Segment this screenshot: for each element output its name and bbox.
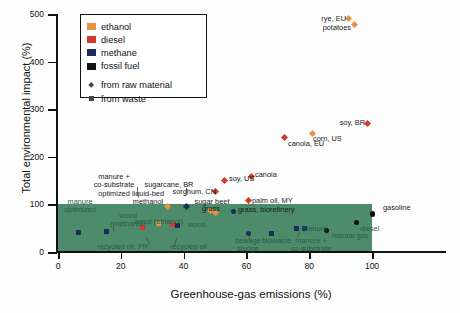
point-manure[interactable] xyxy=(294,226,299,231)
legend-label-diesel: diesel xyxy=(101,35,125,45)
y-tick-400 xyxy=(48,62,57,64)
x-tick-0 xyxy=(58,251,60,259)
legend-label-from-raw-material: from raw material xyxy=(101,80,172,90)
label-manure-co-substrate-optimized: manure + co-substrate optimized xyxy=(84,173,144,198)
label-manure-optimized: manure optimized xyxy=(56,198,104,215)
label-recycled-oil-fr: recycled oil, FR xyxy=(97,243,148,251)
point-canola-eu[interactable] xyxy=(281,134,288,141)
label-recycled-oil: recycled oil xyxy=(170,243,207,251)
label-diesel: diesel xyxy=(360,225,379,233)
y-tick-300 xyxy=(48,109,57,111)
diamond-marker-icon xyxy=(87,83,96,87)
x-tick-20 xyxy=(121,251,123,259)
label-grass-biorefinery: grass, biorefinery xyxy=(238,206,295,214)
label-canola: canola xyxy=(255,171,277,179)
x-tick-label-40: 40 xyxy=(169,261,199,271)
label-manure: manure xyxy=(302,225,327,233)
label-soy-us: soy, US xyxy=(229,175,254,183)
methane-swatch-icon xyxy=(87,49,96,56)
x-tick-100 xyxy=(372,251,374,259)
x-tick-label-20: 20 xyxy=(106,261,136,271)
legend-item-methane[interactable]: methane xyxy=(87,46,200,59)
point-soy-us[interactable] xyxy=(221,177,228,184)
point-manure-optimized[interactable] xyxy=(76,230,81,235)
leader-line-wood-methanol xyxy=(113,222,114,231)
x-tick-label-60: 60 xyxy=(231,261,261,271)
label-grass: grass xyxy=(191,205,231,213)
legend-label-fossil-fuel: fossil fuel xyxy=(101,61,139,71)
y-tick-200 xyxy=(48,157,57,159)
legend-item-diesel[interactable]: diesel xyxy=(87,33,200,46)
fossil-fuel-swatch-icon xyxy=(87,63,96,70)
label-rye-eu: rye, EU xyxy=(298,15,346,23)
legend-label-methane: methane xyxy=(101,48,137,58)
legend-item-from-raw-material[interactable]: from raw material xyxy=(87,79,200,92)
square-marker-icon xyxy=(87,96,96,100)
label-soy-br: soy, BR xyxy=(322,119,365,127)
point-sewage-sludge[interactable] xyxy=(246,231,251,236)
leader-line-sugarcane-2 xyxy=(186,188,187,195)
label-canola-eu: canola, EU xyxy=(288,140,324,148)
y-tick-0 xyxy=(48,252,57,254)
legend-label-from-waste: from waste xyxy=(101,94,146,104)
label-potatoes: potatoes xyxy=(303,24,351,32)
leader-line-sewage xyxy=(249,236,250,241)
x-tick-label-100: 100 xyxy=(357,261,387,271)
legend-item-from-waste[interactable]: from waste xyxy=(87,92,200,105)
label-wood: wood xyxy=(188,221,206,229)
y-tick-500 xyxy=(48,14,57,16)
chart-figure: 0 100 200 300 400 500 0 20 40 60 80 100 … xyxy=(0,0,460,313)
x-tick-label-0: 0 xyxy=(43,261,73,271)
point-gasoline[interactable] xyxy=(370,211,375,216)
x-tick-40 xyxy=(184,251,186,259)
diesel-swatch-icon xyxy=(87,36,96,43)
y-tick-label-0: 0 xyxy=(4,247,44,257)
point-palm-oil-my[interactable] xyxy=(244,197,251,204)
point-rye-eu[interactable] xyxy=(345,15,352,22)
legend-item-fossil-fuel[interactable]: fossil fuel xyxy=(87,60,200,73)
label-gasoline: gasoline xyxy=(383,204,411,212)
x-axis-title: Greenhouse-gas emissions (%) xyxy=(56,288,446,300)
legend-label-ethanol: ethanol xyxy=(101,22,131,32)
ethanol-swatch-icon xyxy=(87,23,96,30)
x-tick-label-80: 80 xyxy=(294,261,324,271)
label-wood-ethanol: wood (ethanol) xyxy=(134,218,183,226)
legend-item-ethanol[interactable]: ethanol xyxy=(87,20,200,33)
point-potatoes[interactable] xyxy=(351,21,358,28)
point-wood-methanol[interactable] xyxy=(104,229,109,234)
y-axis-title: Total environmental impact (%) xyxy=(20,8,32,228)
leader-line-sugarcane xyxy=(137,187,138,195)
chart-legend: ethanol diesel methane fossil fuel from … xyxy=(80,14,207,98)
